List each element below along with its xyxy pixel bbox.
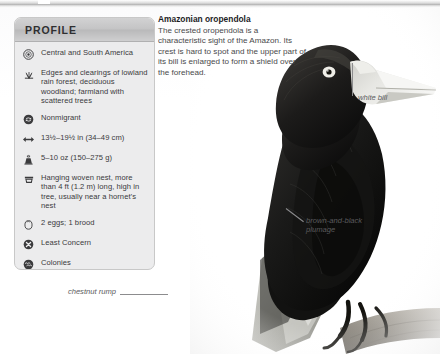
profile-row-nest: Hanging woven nest, more than 4 ft (1.2 … [20, 173, 148, 210]
profile-row-size-text: 13½–19½ in (34–49 cm) [37, 133, 124, 142]
callout-leader-rump [120, 294, 168, 295]
profile-row-eggs-text: 2 eggs; 1 brood [37, 218, 95, 227]
conservation-status-icon [20, 239, 37, 252]
profile-row-size: 13½–19½ in (34–49 cm) [20, 133, 148, 147]
profile-row-migration-text: Nonmigrant [37, 113, 81, 122]
egg-icon [20, 219, 37, 232]
profile-row-conservation-text: Least Concern [37, 238, 91, 247]
profile-panel-header: PROFILE [15, 18, 154, 42]
callout-leader-white-bill [352, 63, 353, 96]
page-top-edge-nick [38, 0, 50, 4]
profile-panel: PROFILE Central and South America Edges … [14, 17, 155, 270]
species-heading: Amazonian oropendola [158, 14, 308, 24]
profile-row-migration: Nonmigrant [20, 113, 148, 127]
profile-row-range: Central and South America [20, 48, 148, 62]
migration-icon [20, 114, 37, 127]
profile-rows: Central and South America Edges and clea… [15, 42, 154, 270]
profile-row-conservation: Least Concern [20, 238, 148, 252]
social-flock-icon [20, 259, 37, 270]
profile-row-habitat-text: Edges and clearings of lowland rain fore… [37, 68, 148, 105]
profile-row-eggs: 2 eggs; 1 brood [20, 218, 148, 232]
profile-title: PROFILE [25, 24, 77, 36]
profile-row-social: Colonies [20, 258, 148, 270]
callout-white-bill: white bill [358, 93, 428, 102]
profile-row-weight: 5–10 oz (150–275 g) [20, 153, 148, 167]
profile-row-social-text: Colonies [37, 258, 71, 267]
nest-icon [20, 174, 37, 187]
profile-row-habitat: Edges and clearings of lowland rain fore… [20, 68, 148, 105]
habitat-grass-icon [20, 69, 37, 82]
weight-icon [20, 154, 37, 167]
profile-row-nest-text: Hanging woven nest, more than 4 ft (1.2 … [37, 173, 148, 210]
size-arrows-icon [20, 134, 37, 147]
species-body-text: The crested oropendola is a characterist… [158, 26, 308, 78]
bird-field-guide-page: PROFILE Central and South America Edges … [0, 0, 440, 354]
profile-row-weight-text: 5–10 oz (150–275 g) [37, 153, 112, 162]
species-description: Amazonian oropendola The crested oropend… [158, 14, 308, 78]
profile-row-range-text: Central and South America [37, 48, 133, 57]
page-top-scan-edge [0, 0, 440, 8]
callout-chestnut-rump: chestnut rump [46, 287, 116, 296]
callout-plumage: brown-and-black plumage [306, 216, 390, 235]
globe-range-icon [20, 49, 37, 62]
